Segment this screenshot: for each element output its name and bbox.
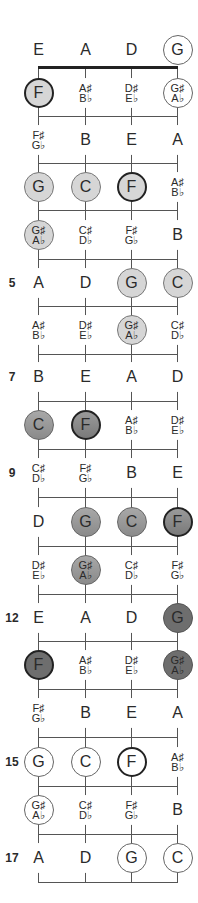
note-label: D: [126, 42, 138, 58]
fret-number: 7: [4, 369, 20, 385]
note-marker: A: [163, 125, 193, 155]
fret-line: [38, 306, 178, 307]
note-flat-label: A♭: [32, 810, 44, 820]
note-marker: G♯A♭: [117, 315, 147, 345]
note-flat-label: E♭: [125, 665, 137, 675]
note-label: F: [34, 85, 44, 101]
note-label: A: [80, 42, 91, 58]
note-marker: A♯B♭: [117, 410, 147, 440]
note-marker: A♯B♭: [71, 650, 101, 680]
note-flat-label: A♭: [32, 235, 44, 245]
note-marker: F: [117, 172, 147, 202]
note-marker: D: [117, 35, 147, 65]
note-label: B: [33, 369, 44, 385]
note-marker: G: [117, 843, 147, 873]
note-flat-label: G♭: [125, 235, 139, 245]
note-flat-label: B♭: [125, 425, 137, 435]
note-flat-label: E♭: [79, 330, 91, 340]
note-marker: G♯A♭: [24, 220, 54, 250]
note-marker: D♯E♭: [117, 78, 147, 108]
note-label: D: [80, 275, 92, 291]
note-label: G: [171, 610, 183, 626]
fret-number: 5: [4, 275, 20, 291]
note-label: F: [81, 417, 91, 433]
note-label: C: [80, 179, 92, 195]
note-label: E: [126, 132, 137, 148]
fret-line: [38, 689, 178, 690]
note-marker: A: [117, 362, 147, 392]
note-label: A: [33, 275, 44, 291]
note-marker: F♯G♭: [24, 698, 54, 728]
note-marker: A: [71, 35, 101, 65]
fret-line: [38, 449, 178, 450]
note-flat-label: G♭: [32, 713, 46, 723]
note-marker: A♯B♭: [163, 172, 193, 202]
note-marker: D♯E♭: [71, 315, 101, 345]
note-label: B: [172, 802, 183, 818]
fret-line: [38, 259, 178, 260]
note-marker: G: [71, 507, 101, 537]
note-label: A: [80, 610, 91, 626]
note-label: C: [172, 850, 184, 866]
note-marker: B: [163, 220, 193, 250]
note-label: A: [172, 132, 183, 148]
note-label: G: [32, 754, 44, 770]
note-marker: B: [24, 362, 54, 392]
note-marker: F♯G♭: [71, 458, 101, 488]
note-label: F: [173, 514, 183, 530]
note-label: G: [125, 850, 137, 866]
note-label: D: [33, 514, 45, 530]
note-marker: D: [24, 507, 54, 537]
note-marker: C: [24, 410, 54, 440]
note-marker: B: [71, 125, 101, 155]
note-marker: F♯G♭: [24, 125, 54, 155]
fret-line: [38, 594, 178, 595]
note-label: D: [172, 369, 184, 385]
fret-line: [38, 497, 178, 498]
note-label: F: [127, 179, 137, 195]
note-label: F: [34, 657, 44, 673]
note-flat-label: B♭: [171, 187, 183, 197]
note-marker: A: [24, 843, 54, 873]
note-flat-label: A♭: [171, 665, 183, 675]
note-marker: G♯A♭: [163, 650, 193, 680]
note-label: B: [126, 465, 137, 481]
note-marker: D♯E♭: [163, 410, 193, 440]
note-marker: C: [71, 172, 101, 202]
nut-line: [38, 66, 178, 69]
note-marker: C: [71, 747, 101, 777]
note-label: D: [80, 850, 92, 866]
note-marker: B: [117, 458, 147, 488]
note-label: F: [127, 754, 137, 770]
note-flat-label: B♭: [171, 762, 183, 772]
note-flat-label: D♭: [125, 570, 138, 580]
note-marker: F: [163, 507, 193, 537]
fret-line: [38, 163, 178, 164]
note-marker: D: [117, 603, 147, 633]
fretboard-diagram: EADGFA♯B♭D♯E♭G♯A♭F♯G♭BEAGCFA♯B♭G♯A♭C♯D♭F…: [0, 0, 198, 903]
note-label: C: [172, 275, 184, 291]
note-marker: A: [24, 268, 54, 298]
note-marker: D: [163, 362, 193, 392]
fret-number: 15: [4, 754, 20, 770]
note-marker: E: [24, 603, 54, 633]
note-flat-label: D♭: [32, 473, 45, 483]
note-label: A: [126, 369, 137, 385]
note-marker: E: [117, 125, 147, 155]
note-marker: F: [71, 410, 101, 440]
note-marker: G: [24, 747, 54, 777]
note-flat-label: D♭: [79, 235, 92, 245]
note-label: B: [172, 227, 183, 243]
fret-number: 9: [4, 465, 20, 481]
note-flat-label: E♭: [32, 570, 44, 580]
note-flat-label: A♭: [79, 570, 91, 580]
note-marker: D♯E♭: [117, 650, 147, 680]
note-flat-label: G♭: [125, 810, 139, 820]
note-label: E: [126, 705, 137, 721]
note-marker: G: [163, 603, 193, 633]
note-label: A: [172, 705, 183, 721]
fret-line: [38, 401, 178, 402]
note-marker: F: [24, 78, 54, 108]
fret-line: [38, 786, 178, 787]
note-marker: A♯B♭: [24, 315, 54, 345]
